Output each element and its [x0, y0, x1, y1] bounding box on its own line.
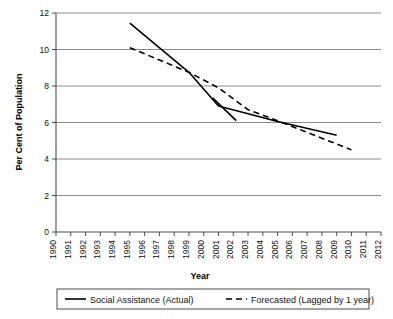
x-axis-tick-label: 2001: [211, 240, 221, 259]
x-axis-tick-label: 1992: [78, 240, 88, 259]
y-axis-tick-label: 6: [44, 118, 49, 128]
x-axis-tick-label: 2010: [343, 240, 353, 259]
chart-container: 024681012 199019911992199319941995199619…: [0, 0, 393, 319]
x-axis-tick-label: 2008: [314, 240, 324, 259]
x-axis-tick-label: 2006: [284, 240, 294, 259]
y-axis-tick-label: 0: [44, 227, 49, 237]
x-axis-tick-label: 2000: [196, 240, 206, 259]
x-axis-tick-label: 2002: [225, 240, 235, 259]
x-axis-ticks-group: 1990199119921993199419951996199719981999…: [48, 232, 383, 259]
legend-label-actual: Social Assistance (Actual): [90, 295, 194, 305]
data-series-group: [130, 23, 352, 150]
y-axis-tick-label: 2: [44, 191, 49, 201]
x-axis-title: Year: [190, 271, 210, 281]
y-axis-ticks-group: 024681012: [40, 8, 56, 237]
x-axis-tick-label: 1994: [107, 240, 117, 259]
x-axis-tick-label: 2012: [373, 240, 383, 259]
x-axis-tick-label: 2007: [299, 240, 309, 259]
x-axis-tick-label: 2005: [270, 240, 280, 259]
x-axis-tick-label: 1995: [122, 240, 132, 259]
x-axis-tick-label: 2003: [240, 240, 250, 259]
line-chart: 024681012 199019911992199319941995199619…: [0, 0, 393, 319]
y-axis-title: Per Cent of Population: [14, 73, 24, 170]
x-axis-tick-label: 1990: [48, 240, 58, 259]
legend: Social Assistance (Actual) Forecasted (L…: [57, 289, 374, 309]
legend-label-forecasted: Forecasted (Lagged by 1 year): [251, 295, 374, 305]
x-axis-tick-label: 2004: [255, 240, 265, 259]
x-axis-tick-label: 1999: [181, 240, 191, 259]
x-axis-tick-label: 1997: [151, 240, 161, 259]
y-axis-tick-label: 8: [44, 81, 49, 91]
y-axis-tick-label: 10: [40, 45, 50, 55]
x-axis-tick-label: 1993: [92, 240, 102, 259]
x-axis-tick-label: 1998: [166, 240, 176, 259]
y-axis-tick-label: 12: [40, 8, 50, 18]
x-axis-tick-label: 1991: [63, 240, 73, 259]
x-axis-tick-label: 2011: [358, 240, 368, 259]
x-axis-tick-label: 2009: [329, 240, 339, 259]
y-axis-tick-label: 4: [44, 154, 49, 164]
data-series-line: [130, 48, 352, 150]
x-axis-tick-label: 1996: [137, 240, 147, 259]
